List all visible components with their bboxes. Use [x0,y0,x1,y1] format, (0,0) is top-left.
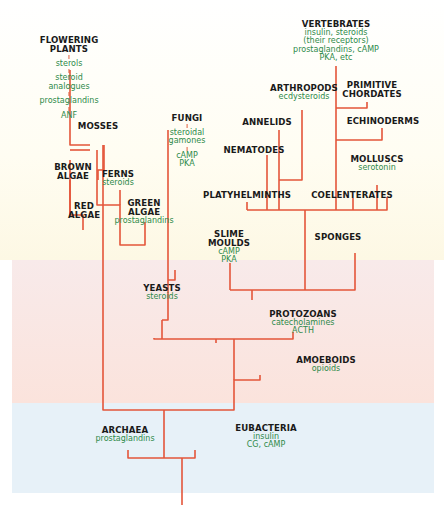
chemical-label: PKA [208,256,250,264]
chemical-label: PKA [169,160,206,168]
node-yeasts: YEASTS steroids [143,284,181,301]
node-arthropods: ARTHROPODS ecdysteroids [270,84,338,101]
chemical-label: ecdysteroids [270,93,338,101]
node-red-algae: RED ALGAE [68,202,100,220]
node-flowering-plants: FLOWERING PLANTS sterols steroid analogu… [39,36,98,120]
node-annelids: ANNELIDS [242,118,292,127]
node-name: PLANTS [39,45,98,54]
node-slime-moulds: SLIME MOULDS cAMP PKA [208,230,250,265]
chemical-label: steroids [143,293,181,301]
node-name: ALGAE [68,211,100,220]
chemical-label: ANF [39,112,98,120]
chemical-label: analogues [39,83,98,91]
chemical-label: prostaglandins [114,217,173,225]
chemical-label: PKA, etc [293,54,379,62]
node-name: COELENTERATES [311,191,393,200]
node-echinoderms: ECHINODERMS [347,117,420,126]
node-platyhelminths: PLATYHELMINTHS [203,191,291,200]
node-eubacteria: EUBACTERIA insulin CG, cAMP [235,424,297,450]
node-protozoans: PROTOZOANS catecholamines ACTH [269,310,337,336]
node-mosses: MOSSES [78,122,119,131]
node-name: CHORDATES [342,90,401,99]
node-coelenterates: COELENTERATES [311,191,393,200]
node-green-algae: GREEN ALGAE prostaglandins [114,199,173,225]
chemical-label: sterols [39,60,98,68]
chemical-label: serotonin [350,164,403,172]
chemical-label: prostaglandins [95,435,154,443]
node-ferns: FERNS steroids [102,170,134,187]
chemical-label: steroids [102,179,134,187]
chemical-label: prostaglandins [39,97,98,105]
chemical-label: CG, cAMP [235,441,297,449]
node-archaea: ARCHAEA prostaglandins [95,426,154,443]
node-name: ECHINODERMS [347,117,420,126]
node-name: SPONGES [315,233,362,242]
chemical-label: opioids [296,365,356,373]
node-name: ALGAE [54,172,92,181]
node-nematodes: NEMATODES [224,146,285,155]
chemical-label: gamones [169,137,206,145]
node-name: PLATYHELMINTHS [203,191,291,200]
node-primitive-chordates: PRIMITIVE CHORDATES [342,81,401,99]
node-brown-algae: BROWN ALGAE [54,163,92,181]
node-vertebrates: VERTEBRATES insulin, steroids (their rec… [293,20,379,63]
node-name: FUNGI [169,114,206,123]
node-name: MOSSES [78,122,119,131]
node-sponges: SPONGES [315,233,362,242]
node-amoeboids: AMOEBOIDS opioids [296,356,356,373]
node-molluscs: MOLLUSCS serotonin [350,155,403,172]
chemical-label: ACTH [269,327,337,335]
node-name: ANNELIDS [242,118,292,127]
node-name: NEMATODES [224,146,285,155]
node-fungi: FUNGI steroidal gamones cAMP PKA [169,114,206,169]
